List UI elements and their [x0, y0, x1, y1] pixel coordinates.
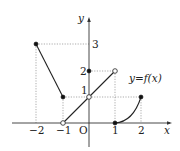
x-tick-label-neg1: −1 [56, 124, 71, 136]
graph-pieces [36, 44, 141, 123]
y-tick-label-1: 1 [81, 84, 88, 96]
y-tick-label-2: 2 [80, 65, 87, 77]
function-graph: y x O −2 −1 1 2 1 2 3 y=f(x) [0, 0, 180, 151]
point-neg2-3 [34, 42, 38, 46]
function-label: y=f(x) [128, 72, 162, 84]
point-neg1-1 [61, 95, 65, 99]
point-2-1 [139, 95, 143, 99]
x-tick-label-1: 1 [112, 124, 119, 136]
x-tick-label-neg2: −2 [29, 124, 44, 136]
y-axis-arrow-icon [87, 17, 91, 22]
y-tick-label-3: 3 [92, 38, 99, 50]
guide-lines [36, 44, 141, 123]
y-axis-label: y [77, 12, 85, 24]
labels: y x O −2 −1 1 2 1 2 3 y=f(x) [29, 12, 170, 136]
x-axis-label: x [164, 124, 170, 136]
points [34, 42, 143, 125]
y-axis [87, 17, 91, 147]
point-0-2 [87, 69, 91, 73]
point-1-2-open [113, 69, 118, 74]
curve-right [115, 97, 141, 123]
origin-label: O [79, 124, 88, 136]
x-tick-label-2: 2 [138, 124, 145, 136]
segment-left [36, 44, 63, 97]
